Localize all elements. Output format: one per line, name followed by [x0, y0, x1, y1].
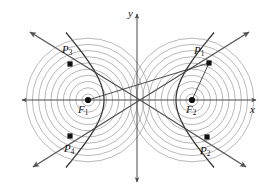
- point-label-p4: P4: [64, 143, 74, 156]
- label-base: P: [64, 142, 71, 154]
- label-base: P: [62, 43, 69, 55]
- label-subscript: 1: [85, 109, 89, 117]
- label-subscript: 1: [201, 50, 205, 58]
- label-subscript: 3: [69, 49, 73, 57]
- focus-label-f1: F1: [78, 104, 88, 117]
- x-axis-label: x: [250, 104, 255, 115]
- point-label-p1: P1: [194, 45, 204, 58]
- label-subscript: 2: [207, 150, 211, 158]
- point-label-p2: P2: [200, 145, 210, 158]
- label-base: P: [200, 144, 207, 156]
- y-axis-label: y: [128, 8, 133, 19]
- diagram-canvas: [0, 0, 277, 194]
- point-marker-p4: [67, 133, 72, 138]
- label-subscript: 4: [71, 148, 75, 156]
- label-base: F: [78, 103, 85, 115]
- label-base: F: [186, 103, 193, 115]
- point-marker-p1: [206, 60, 211, 65]
- focus-label-f2: F2: [186, 104, 196, 117]
- focus-point-f1: [85, 97, 91, 103]
- point-marker-p3: [67, 61, 72, 66]
- point-marker-p2: [204, 134, 209, 139]
- label-subscript: 2: [193, 109, 197, 117]
- point-label-p3: P3: [62, 44, 72, 57]
- hyperbola-diagram: x y F1F2P1P2P3P4: [0, 0, 277, 194]
- label-base: P: [194, 44, 201, 56]
